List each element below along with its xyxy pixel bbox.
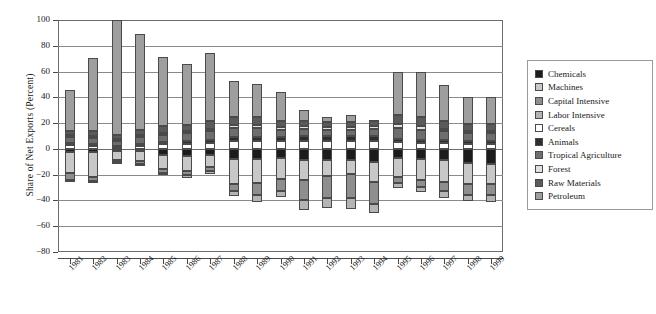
legend-item[interactable]: Animals bbox=[535, 135, 647, 149]
y-tick-mark bbox=[53, 72, 58, 73]
bar-segment bbox=[229, 137, 239, 141]
bar-segment bbox=[229, 191, 239, 196]
bar-segment bbox=[439, 85, 449, 121]
bar-group[interactable] bbox=[322, 20, 332, 252]
bar-segment bbox=[369, 120, 379, 122]
bar-segment bbox=[369, 162, 379, 183]
legend-item[interactable]: Forest bbox=[535, 162, 647, 176]
bar-group[interactable] bbox=[299, 20, 309, 252]
bar-segment bbox=[135, 34, 145, 131]
legend-item[interactable]: Cereals bbox=[535, 121, 647, 135]
bar-segment bbox=[112, 135, 122, 139]
bar-segment bbox=[463, 149, 473, 163]
bar-segment bbox=[416, 117, 426, 126]
bar-group[interactable] bbox=[416, 20, 426, 252]
legend-label: Capital Intensive bbox=[548, 96, 609, 106]
bar-segment bbox=[322, 136, 332, 141]
legend-item[interactable]: Labor Intensive bbox=[535, 108, 647, 122]
legend-label: Forest bbox=[548, 164, 571, 174]
x-tick-label: 1999 bbox=[488, 254, 506, 272]
bar-segment bbox=[158, 135, 168, 142]
y-tick-label: 40 bbox=[10, 92, 50, 101]
bar-group[interactable] bbox=[135, 20, 145, 252]
x-tick-label: 1987 bbox=[207, 254, 225, 272]
bar-segment bbox=[393, 128, 403, 139]
bar-segment bbox=[205, 143, 215, 149]
bar-segment bbox=[65, 131, 75, 135]
y-tick-mark bbox=[53, 175, 58, 176]
legend-item[interactable]: Petroleum bbox=[535, 189, 647, 203]
bar-segment bbox=[182, 125, 192, 131]
bar-group[interactable] bbox=[65, 20, 75, 252]
bar-group[interactable] bbox=[346, 20, 356, 252]
bar-segment bbox=[416, 130, 426, 140]
x-tick-label: 1992 bbox=[324, 254, 342, 272]
bar-group[interactable] bbox=[252, 20, 262, 252]
bar-group[interactable] bbox=[463, 20, 473, 252]
bar-group[interactable] bbox=[486, 20, 496, 252]
bar-segment bbox=[88, 152, 98, 176]
x-tick-label: 1991 bbox=[301, 254, 319, 272]
bar-segment bbox=[205, 129, 215, 132]
bar-segment bbox=[112, 146, 122, 148]
bar-group[interactable] bbox=[276, 20, 286, 252]
bar-group[interactable] bbox=[182, 20, 192, 252]
bar-segment bbox=[112, 20, 122, 135]
bar-segment bbox=[322, 176, 332, 198]
bar-segment bbox=[229, 81, 239, 116]
y-tick-mark bbox=[53, 252, 58, 253]
bar-group[interactable] bbox=[205, 20, 215, 252]
legend-item[interactable]: Tropical Agriculture bbox=[535, 149, 647, 163]
bar-group[interactable] bbox=[393, 20, 403, 252]
legend: ChemicalsMachinesCapital IntensiveLabor … bbox=[527, 60, 653, 210]
bar-group[interactable] bbox=[158, 20, 168, 252]
bar-segment bbox=[299, 129, 309, 136]
y-tick-label: 0 bbox=[10, 144, 50, 153]
y-tick-label: −80 bbox=[10, 247, 50, 256]
bar-group[interactable] bbox=[439, 20, 449, 252]
bar-segment bbox=[205, 171, 215, 174]
legend-item[interactable]: Machines bbox=[535, 81, 647, 95]
bar-segment bbox=[65, 180, 75, 182]
bar-segment bbox=[252, 125, 262, 128]
legend-item[interactable]: Capital Intensive bbox=[535, 94, 647, 108]
bar-segment bbox=[393, 115, 403, 124]
bar-segment bbox=[276, 130, 286, 138]
legend-swatch-icon bbox=[535, 111, 543, 119]
plot-area bbox=[58, 20, 503, 252]
x-tick-label: 1994 bbox=[371, 254, 389, 272]
bar-segment bbox=[65, 143, 75, 145]
bar-segment bbox=[158, 173, 168, 175]
bar-group[interactable] bbox=[229, 20, 239, 252]
bar-segment bbox=[276, 149, 286, 158]
chart-root: Share of Net Exports (Percent) 100806040… bbox=[0, 0, 656, 314]
bar-segment bbox=[135, 135, 145, 137]
bar-group[interactable] bbox=[369, 20, 379, 252]
bar-segment bbox=[252, 141, 262, 149]
legend-swatch-icon bbox=[535, 165, 543, 173]
y-tick-label: −20 bbox=[10, 170, 50, 179]
bar-segment bbox=[439, 182, 449, 191]
x-tick-label: 1981 bbox=[67, 254, 85, 272]
bar-segment bbox=[229, 141, 239, 149]
legend-item[interactable]: Chemicals bbox=[535, 67, 647, 81]
bar-segment bbox=[88, 146, 98, 149]
bar-segment bbox=[393, 149, 403, 158]
bar-segment bbox=[346, 149, 356, 161]
bar-segment bbox=[393, 183, 403, 188]
legend-item[interactable]: Raw Materials bbox=[535, 176, 647, 190]
bar-segment bbox=[416, 126, 426, 129]
bar-segment bbox=[252, 117, 262, 125]
bar-segment bbox=[112, 141, 122, 146]
bar-group[interactable] bbox=[88, 20, 98, 252]
bar-segment bbox=[416, 187, 426, 192]
x-tick-label: 1997 bbox=[441, 254, 459, 272]
bar-segment bbox=[416, 72, 426, 118]
bar-segment bbox=[486, 149, 496, 164]
bar-segment bbox=[346, 160, 356, 174]
bar-segment bbox=[416, 140, 426, 143]
bar-group[interactable] bbox=[112, 20, 122, 252]
bar-segment bbox=[135, 164, 145, 166]
bar-segment bbox=[322, 198, 332, 208]
legend-swatch-icon bbox=[535, 83, 543, 91]
